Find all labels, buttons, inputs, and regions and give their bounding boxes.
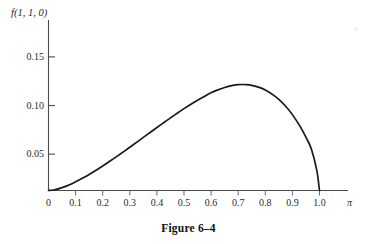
x-tick-label-0.6: 0.6 (205, 198, 218, 208)
x-tick-label-0.4: 0.4 (151, 198, 164, 208)
x-tick-label-0: 0 (46, 198, 51, 208)
x-tick-label-0.7: 0.7 (232, 198, 245, 208)
figure-caption: Figure 6–4 (0, 222, 377, 235)
x-tick-label-0.2: 0.2 (96, 198, 109, 208)
y-tick-label-0.05: 0.05 (14, 149, 44, 159)
x-tick-label-0.9: 0.9 (286, 198, 299, 208)
y-axis-title: f(1, 1, 0) (11, 7, 47, 19)
y-tick-label-0.10: 0.10 (14, 101, 44, 111)
y-tick-label-0.15: 0.15 (14, 52, 44, 62)
figure-container: f(1, 1, 0) 0.15 0.10 0.05 0 0.1 0.2 0.3 … (0, 0, 377, 244)
x-tick-label-0.1: 0.1 (69, 198, 82, 208)
x-tick-label-0.8: 0.8 (259, 198, 272, 208)
y-axis-title-text: f(1, 1, 0) (11, 7, 47, 18)
function-curve (49, 85, 320, 191)
y-axis-ticks (49, 57, 56, 154)
x-tick-label-1.0: 1.0 (313, 198, 326, 208)
scan-artifact (354, 27, 358, 31)
x-axis-title: π (347, 198, 352, 208)
x-tick-label-0.3: 0.3 (124, 198, 137, 208)
x-axis-ticks (76, 191, 320, 196)
x-tick-label-0.5: 0.5 (178, 198, 191, 208)
